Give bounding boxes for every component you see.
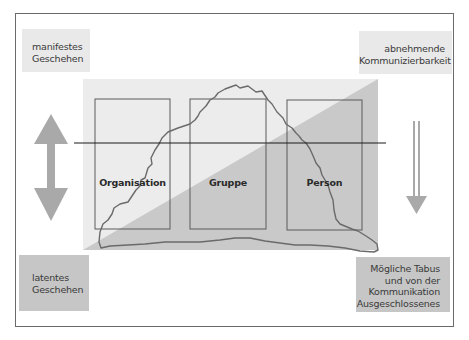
level-label-person: Person bbox=[287, 177, 362, 188]
label-line: und von der bbox=[356, 275, 440, 287]
label-latent-events: latentes Geschehen bbox=[19, 255, 89, 311]
double-arrow-icon bbox=[34, 114, 68, 221]
label-possible-taboos: Mögliche Tabus und von der Kommunikation… bbox=[356, 257, 450, 312]
label-decreasing-communicability: abnehmende Kommunizierbarkeit bbox=[359, 31, 452, 74]
level-label-organisation: Organisation bbox=[95, 177, 170, 188]
down-arrow-icon bbox=[406, 121, 427, 214]
label-line: abnehmende bbox=[359, 43, 445, 55]
label-line: latentes bbox=[32, 272, 89, 284]
label-manifest-events: manifestes Geschehen bbox=[22, 29, 90, 72]
label-line: Mögliche Tabus bbox=[356, 263, 440, 275]
label-line: Geschehen bbox=[32, 53, 90, 65]
label-line: Kommunikation bbox=[356, 286, 440, 298]
level-label-gruppe: Gruppe bbox=[190, 177, 266, 188]
label-line: manifestes bbox=[32, 41, 90, 53]
label-line: Ausgeschlossenes bbox=[356, 298, 440, 310]
label-line: Geschehen bbox=[32, 284, 89, 296]
label-line: Kommunizierbarkeit bbox=[359, 55, 445, 67]
